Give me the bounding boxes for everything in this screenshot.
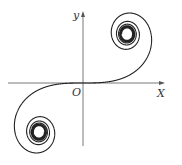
x-axis-label: X [156,87,166,100]
y-axis-label: y [72,9,80,22]
origin-label: O [72,86,81,99]
x-axis-arrow-icon [159,81,165,85]
cornu-spiral-diagram: y X O [0,0,182,165]
y-axis-arrow-icon [81,11,85,17]
